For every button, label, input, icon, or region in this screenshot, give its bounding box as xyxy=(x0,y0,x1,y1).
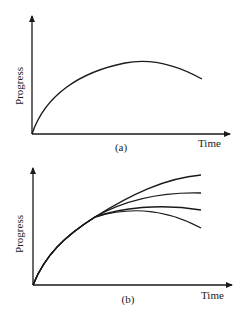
panel-b: Progress Time (b) xyxy=(13,168,232,306)
curve-b-1 xyxy=(33,175,201,285)
x-axis-label-a: Time xyxy=(198,137,221,149)
x-axis-label-b: Time xyxy=(201,289,224,301)
y-axis-label-b: Progress xyxy=(13,215,25,253)
panel-a: Progress Time (a) xyxy=(13,16,230,154)
curve-a xyxy=(32,61,202,134)
caption-b: (b) xyxy=(122,293,135,306)
curve-b-4 xyxy=(33,211,201,285)
figure: Progress Time (a) Progress Time (b) xyxy=(0,0,247,318)
y-axis-label-a: Progress xyxy=(13,67,25,105)
caption-a: (a) xyxy=(115,141,128,154)
